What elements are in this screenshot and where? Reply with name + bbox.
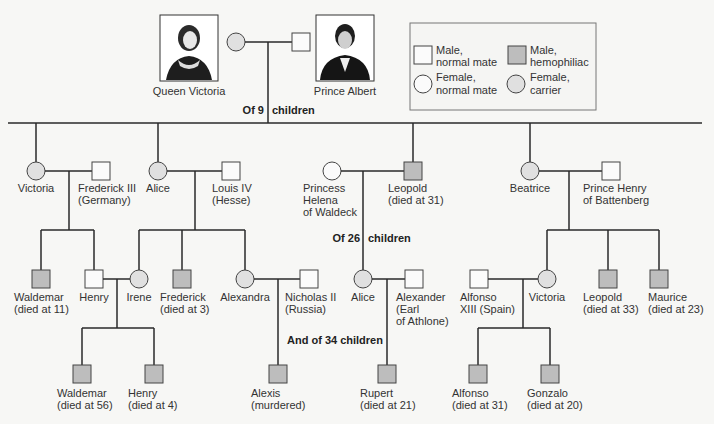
male-hemophiliac-icon bbox=[650, 270, 668, 288]
svg-text:Alice: Alice bbox=[351, 291, 375, 303]
svg-text:Waldemar: Waldemar bbox=[14, 291, 64, 303]
svg-text:Alfonso: Alfonso bbox=[452, 387, 489, 399]
svg-text:Rupert: Rupert bbox=[360, 387, 393, 399]
svg-text:normal mate: normal mate bbox=[436, 84, 497, 96]
female-carrier-icon bbox=[227, 33, 245, 51]
label-queen-victoria: Queen Victoria bbox=[153, 85, 226, 97]
female-carrier-icon bbox=[538, 270, 556, 288]
svg-text:Alice: Alice bbox=[146, 182, 170, 194]
female-carrier-icon bbox=[521, 162, 539, 180]
male-normal-icon bbox=[85, 270, 103, 288]
female-carrier-icon bbox=[354, 270, 372, 288]
female-normal-icon bbox=[323, 162, 341, 180]
prince-albert-portrait bbox=[316, 15, 374, 81]
female-carrier-icon bbox=[149, 162, 167, 180]
male-hemophiliac-icon bbox=[145, 365, 163, 383]
svg-text:Alexandra: Alexandra bbox=[220, 291, 270, 303]
svg-text:Louis IV: Louis IV bbox=[212, 182, 252, 194]
legend-female-carrier-icon bbox=[507, 75, 525, 93]
legend: Male, normal mate Male, hemophiliac Fema… bbox=[410, 23, 596, 110]
svg-text:Female,: Female, bbox=[530, 71, 570, 83]
svg-text:Male,: Male, bbox=[436, 44, 463, 56]
svg-text:normal mate: normal mate bbox=[436, 56, 497, 68]
svg-text:children: children bbox=[272, 104, 315, 116]
svg-text:(died at 3): (died at 3) bbox=[160, 303, 210, 315]
svg-text:children: children bbox=[368, 232, 411, 244]
svg-text:(died at 21): (died at 21) bbox=[360, 399, 416, 411]
svg-text:(died at 56): (died at 56) bbox=[57, 399, 113, 411]
label-prince-albert: Prince Albert bbox=[314, 85, 376, 97]
svg-text:(died at 31): (died at 31) bbox=[452, 399, 508, 411]
female-carrier-icon bbox=[236, 270, 254, 288]
svg-text:Princess: Princess bbox=[303, 182, 346, 194]
male-normal-icon bbox=[405, 270, 423, 288]
male-normal-icon bbox=[300, 270, 318, 288]
svg-text:(died at 20): (died at 20) bbox=[527, 399, 583, 411]
svg-text:Of 26: Of 26 bbox=[332, 232, 360, 244]
svg-text:(Russia): (Russia) bbox=[285, 303, 326, 315]
svg-text:Beatrice: Beatrice bbox=[510, 182, 550, 194]
svg-text:XIII (Spain): XIII (Spain) bbox=[460, 303, 515, 315]
svg-text:hemophiliac: hemophiliac bbox=[530, 56, 589, 68]
male-normal-icon bbox=[602, 162, 620, 180]
svg-text:Henry: Henry bbox=[128, 387, 158, 399]
male-normal-icon bbox=[470, 270, 488, 288]
male-hemophiliac-icon bbox=[269, 365, 287, 383]
svg-text:(died at 11): (died at 11) bbox=[14, 303, 69, 315]
male-hemophiliac-icon bbox=[541, 365, 559, 383]
svg-text:(Earl: (Earl bbox=[396, 303, 419, 315]
male-hemophiliac-icon bbox=[378, 365, 396, 383]
svg-text:carrier: carrier bbox=[530, 84, 562, 96]
legend-male-normal-icon bbox=[414, 46, 432, 64]
svg-text:Alfonso: Alfonso bbox=[460, 291, 497, 303]
male-normal-icon bbox=[222, 162, 240, 180]
svg-text:Frederick: Frederick bbox=[160, 291, 206, 303]
female-carrier-icon bbox=[27, 162, 45, 180]
svg-text:Victoria: Victoria bbox=[529, 291, 566, 303]
svg-text:Irene: Irene bbox=[126, 291, 151, 303]
svg-text:Alexander: Alexander bbox=[396, 291, 446, 303]
male-hemophiliac-icon bbox=[73, 365, 91, 383]
svg-text:of Athlone): of Athlone) bbox=[396, 315, 449, 327]
svg-text:(died at 33): (died at 33) bbox=[583, 303, 639, 315]
svg-text:Henry: Henry bbox=[79, 291, 109, 303]
svg-text:Victoria: Victoria bbox=[18, 182, 55, 194]
svg-text:(died at 4): (died at 4) bbox=[128, 399, 178, 411]
svg-text:of Battenberg: of Battenberg bbox=[583, 194, 649, 206]
svg-text:(Germany): (Germany) bbox=[78, 194, 131, 206]
svg-text:Gonzalo: Gonzalo bbox=[527, 387, 568, 399]
female-carrier-icon bbox=[130, 270, 148, 288]
svg-text:Waldemar: Waldemar bbox=[57, 387, 107, 399]
svg-text:Leopold: Leopold bbox=[388, 182, 427, 194]
svg-text:And of 34 children: And of 34 children bbox=[287, 334, 383, 346]
male-hemophiliac-icon bbox=[32, 270, 50, 288]
svg-text:Alexis: Alexis bbox=[251, 387, 281, 399]
children-count: Of 9 bbox=[243, 104, 264, 116]
svg-text:(murdered): (murdered) bbox=[251, 399, 305, 411]
svg-text:Helena: Helena bbox=[303, 194, 339, 206]
male-hemophiliac-icon bbox=[404, 162, 422, 180]
svg-text:Maurice: Maurice bbox=[648, 291, 687, 303]
male-hemophiliac-icon bbox=[173, 270, 191, 288]
svg-text:Frederick III: Frederick III bbox=[78, 182, 136, 194]
svg-text:(died at 31): (died at 31) bbox=[388, 194, 444, 206]
legend-male-hemophiliac-icon bbox=[508, 46, 526, 64]
svg-text:Prince Henry: Prince Henry bbox=[583, 182, 647, 194]
legend-female-normal-icon bbox=[414, 75, 432, 93]
male-normal-icon bbox=[292, 33, 310, 51]
queen-victoria-portrait bbox=[160, 15, 218, 81]
svg-text:Female,: Female, bbox=[436, 71, 476, 83]
male-normal-icon bbox=[92, 162, 110, 180]
male-hemophiliac-icon bbox=[599, 270, 617, 288]
svg-text:Leopold: Leopold bbox=[583, 291, 622, 303]
svg-text:Nicholas II: Nicholas II bbox=[285, 291, 336, 303]
svg-text:(Hesse): (Hesse) bbox=[212, 194, 251, 206]
male-hemophiliac-icon bbox=[469, 365, 487, 383]
pedigree-chart: Queen Victoria Prince Albert Of 9 childr… bbox=[0, 0, 714, 424]
svg-text:of Waldeck: of Waldeck bbox=[303, 206, 358, 218]
svg-text:(died at 23): (died at 23) bbox=[648, 303, 704, 315]
svg-text:Male,: Male, bbox=[530, 44, 557, 56]
